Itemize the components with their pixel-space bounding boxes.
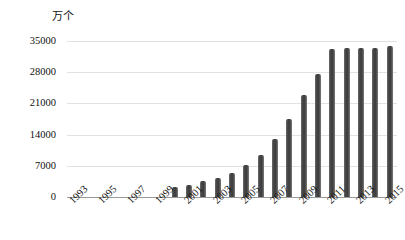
- y-axis-tick-label: 14000: [0, 130, 56, 140]
- bar: [372, 48, 378, 197]
- bar: [315, 74, 321, 197]
- plot-area: 0700014000210002800035000: [67, 41, 397, 197]
- bar: [301, 95, 307, 198]
- bar: [358, 48, 364, 197]
- bar: [286, 119, 292, 197]
- bar-series: [67, 41, 397, 197]
- y-axis-tick-label: 35000: [0, 36, 56, 46]
- y-axis-tick-label: 7000: [0, 161, 56, 171]
- bar: [329, 49, 335, 197]
- y-axis-unit-label: 万个: [52, 10, 74, 22]
- x-axis-tick-labels: 1993199519971999200120032005200720092011…: [67, 198, 405, 240]
- bar: [387, 46, 393, 197]
- bar: [344, 48, 350, 197]
- y-axis-tick-label: 0: [0, 192, 56, 202]
- bar-chart: 万个 0700014000210002800035000 19931995199…: [0, 0, 405, 240]
- y-axis-tick-label: 28000: [0, 67, 56, 77]
- y-axis-tick-label: 21000: [0, 98, 56, 108]
